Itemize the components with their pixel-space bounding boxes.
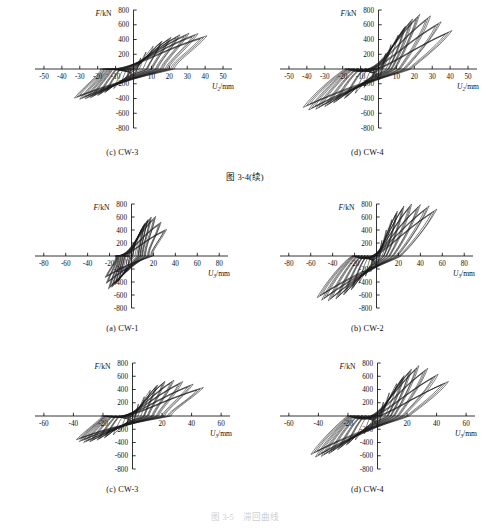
svg-text:400: 400	[361, 227, 372, 235]
chart-row-2: -80-60-40-2020406080-800-600-400-2002004…	[0, 196, 490, 333]
svg-text:50: 50	[219, 73, 227, 81]
svg-text:60: 60	[218, 420, 226, 428]
svg-text:-600: -600	[359, 292, 373, 300]
svg-text:30: 30	[184, 73, 192, 81]
svg-text:60: 60	[194, 260, 202, 268]
svg-text:20: 20	[411, 73, 419, 81]
svg-text:-400: -400	[115, 439, 129, 447]
svg-text:U2/mm: U2/mm	[457, 82, 479, 92]
svg-text:30: 30	[429, 73, 437, 81]
svg-text:50: 50	[464, 73, 472, 81]
svg-text:-60: -60	[284, 420, 294, 428]
svg-text:800: 800	[361, 201, 372, 209]
svg-text:600: 600	[118, 21, 129, 29]
svg-text:-40: -40	[57, 73, 67, 81]
svg-text:-600: -600	[115, 452, 129, 460]
svg-text:-800: -800	[114, 305, 128, 313]
svg-text:U2/mm: U2/mm	[212, 82, 234, 92]
chart-panel-r1c2: -50-40-30-20-101020304050-800-600-400-20…	[245, 0, 490, 157]
svg-text:600: 600	[361, 214, 372, 222]
svg-text:U3/mm: U3/mm	[453, 269, 475, 279]
svg-text:400: 400	[117, 386, 128, 394]
svg-text:200: 200	[362, 399, 373, 407]
chart-panel-r3c1: -60-40-20204060-800-600-400-200200400600…	[0, 355, 245, 494]
svg-text:20: 20	[150, 260, 158, 268]
svg-text:-30: -30	[320, 73, 330, 81]
svg-text:-800: -800	[116, 125, 130, 133]
chart-panel-r2c1: -80-60-40-2020406080-800-600-400-2002004…	[0, 196, 245, 333]
svg-text:200: 200	[363, 51, 374, 59]
svg-text:-400: -400	[361, 95, 375, 103]
hysteresis-plot-r2c1: -80-60-40-2020406080-800-600-400-2002004…	[0, 196, 245, 326]
svg-text:-60: -60	[39, 420, 49, 428]
svg-text:200: 200	[116, 240, 127, 248]
chart-panel-r1c1: -50-40-30-20-101020304050-800-600-400-20…	[0, 0, 245, 157]
svg-text:-50: -50	[39, 73, 49, 81]
svg-text:600: 600	[363, 21, 374, 29]
hysteresis-plot-r2c2: -80-60-40-2020406080-800-600-400-2002004…	[245, 196, 490, 326]
svg-text:400: 400	[116, 227, 127, 235]
svg-text:80: 80	[461, 260, 469, 268]
svg-text:F/kN: F/kN	[93, 362, 111, 371]
svg-text:-40: -40	[302, 73, 312, 81]
svg-text:-800: -800	[359, 305, 373, 313]
svg-text:40: 40	[447, 73, 455, 81]
svg-text:800: 800	[363, 7, 374, 15]
svg-text:-60: -60	[61, 260, 71, 268]
svg-text:-800: -800	[115, 466, 129, 474]
plot-area-r2c2: -80-60-40-2020406080-800-600-400-2002004…	[245, 196, 490, 326]
svg-text:-40: -40	[328, 260, 338, 268]
svg-text:200: 200	[118, 51, 129, 59]
svg-text:U3/mm: U3/mm	[455, 429, 477, 439]
svg-text:400: 400	[118, 36, 129, 44]
chart-panel-r2c2: -80-60-40-2020406080-800-600-400-2002004…	[245, 196, 490, 333]
svg-text:200: 200	[117, 399, 128, 407]
svg-text:40: 40	[202, 73, 210, 81]
figure-bottom-caption: 图 3-5 滞回曲线	[0, 510, 490, 522]
svg-text:80: 80	[216, 260, 224, 268]
svg-text:-400: -400	[116, 95, 130, 103]
plot-area-r3c2: -60-40-20204060-800-600-400-200200400600…	[245, 355, 490, 487]
svg-text:-600: -600	[361, 110, 375, 118]
svg-text:40: 40	[433, 420, 441, 428]
svg-text:-40: -40	[314, 420, 324, 428]
svg-text:600: 600	[362, 373, 373, 381]
hysteresis-plot-r1c1: -50-40-30-20-101020304050-800-600-400-20…	[0, 0, 245, 150]
svg-text:-800: -800	[360, 466, 374, 474]
plot-area-r3c1: -60-40-20204060-800-600-400-200200400600…	[0, 355, 245, 487]
svg-text:600: 600	[117, 373, 128, 381]
svg-text:800: 800	[362, 360, 373, 368]
svg-text:-50: -50	[284, 73, 294, 81]
plot-area-r2c1: -80-60-40-2020406080-800-600-400-2002004…	[0, 196, 245, 326]
svg-text:600: 600	[116, 214, 127, 222]
svg-text:F/kN: F/kN	[339, 9, 357, 18]
svg-text:20: 20	[403, 420, 411, 428]
svg-text:F/kN: F/kN	[337, 203, 355, 212]
svg-text:40: 40	[172, 260, 180, 268]
hysteresis-plot-r3c2: -60-40-20204060-800-600-400-200200400600…	[245, 355, 490, 487]
plot-area-r1c2: -50-40-30-20-101020304050-800-600-400-20…	[245, 0, 490, 150]
svg-text:60: 60	[463, 420, 471, 428]
svg-text:-30: -30	[75, 73, 85, 81]
svg-text:-600: -600	[114, 292, 128, 300]
figure-middle-caption: 图 3-4(续)	[0, 170, 490, 182]
svg-text:F/kN: F/kN	[94, 9, 112, 18]
hysteresis-plot-r3c1: -60-40-20204060-800-600-400-200200400600…	[0, 355, 245, 487]
figure-sheet: -50-40-30-20-101020304050-800-600-400-20…	[0, 0, 490, 528]
svg-text:-80: -80	[39, 260, 49, 268]
svg-text:800: 800	[118, 7, 129, 15]
plot-area-r1c1: -50-40-30-20-101020304050-800-600-400-20…	[0, 0, 245, 150]
svg-text:-400: -400	[360, 439, 374, 447]
svg-text:200: 200	[361, 240, 372, 248]
svg-text:-60: -60	[306, 260, 316, 268]
svg-text:20: 20	[166, 73, 174, 81]
svg-text:800: 800	[116, 201, 127, 209]
chart-row-3: -60-40-20204060-800-600-400-200200400600…	[0, 355, 490, 494]
svg-text:400: 400	[362, 386, 373, 394]
svg-text:-40: -40	[83, 260, 93, 268]
svg-text:F/kN: F/kN	[338, 362, 356, 371]
svg-text:-80: -80	[284, 260, 294, 268]
svg-text:F/kN: F/kN	[92, 203, 110, 212]
svg-text:-600: -600	[360, 452, 374, 460]
svg-text:U3/mm: U3/mm	[210, 429, 232, 439]
